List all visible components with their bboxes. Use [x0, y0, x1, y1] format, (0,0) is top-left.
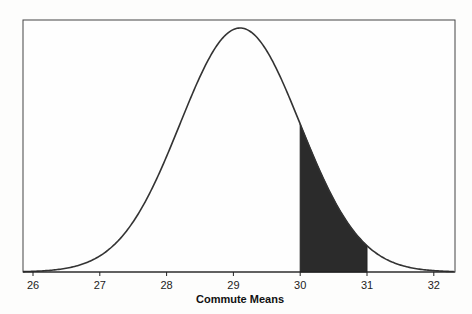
x-tick-label: 26 — [27, 279, 39, 291]
x-tick-label: 31 — [361, 279, 373, 291]
normal-distribution-chart: 26272829303132 Commute Means — [0, 0, 472, 314]
x-tick-label: 29 — [227, 279, 239, 291]
plot-frame — [23, 20, 455, 272]
x-tick-label: 30 — [294, 279, 306, 291]
x-tick-label: 27 — [94, 279, 106, 291]
x-tick-label: 28 — [160, 279, 172, 291]
x-axis-title: Commute Means — [196, 293, 284, 305]
x-tick-label: 32 — [428, 279, 440, 291]
x-axis-ticks: 26272829303132 — [27, 272, 440, 291]
